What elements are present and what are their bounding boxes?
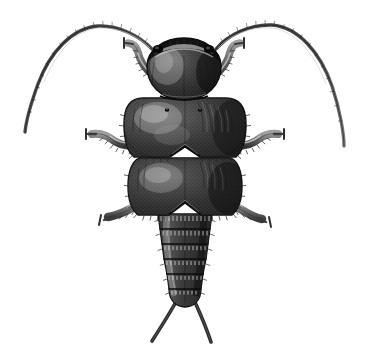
insect-dorsal-drawing [0, 0, 366, 364]
insect-illustration-figure: Dorsal view of an insect [0, 0, 366, 364]
